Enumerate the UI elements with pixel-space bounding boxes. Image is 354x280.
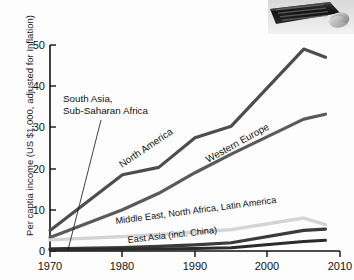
- annotation-south-asia-line1: South Asia,: [63, 93, 113, 104]
- series-line-western-europe: [50, 114, 326, 237]
- x-tick-1980: 1980: [110, 260, 134, 272]
- y-tick-0: 0: [39, 245, 45, 257]
- y-tick-40: 40: [33, 80, 45, 92]
- annotation-east-asia: East Asia (incl. China): [127, 225, 217, 245]
- chart-figure: Per captia income (US $1,000, adjusted f…: [0, 0, 354, 280]
- series-line-north-america: [50, 49, 326, 230]
- annotation-south-asia-line2: Sub-Saharan Africa: [63, 105, 149, 116]
- x-tick-1970: 1970: [38, 260, 62, 272]
- annotation-middle-east: Middle East, North Africa, Latin America: [115, 195, 278, 226]
- x-tick-2000: 2000: [255, 260, 279, 272]
- y-tick-50: 50: [33, 39, 45, 51]
- x-axis-tick-labels: 1970 1980 1990 2000 2010: [38, 260, 352, 272]
- x-axis-ticks: [50, 251, 340, 257]
- y-tick-20: 20: [33, 163, 45, 175]
- annotation-south-asia-leader-line: [68, 120, 101, 250]
- x-tick-1990: 1990: [183, 260, 207, 272]
- x-tick-2010: 2010: [328, 260, 352, 272]
- y-tick-10: 10: [33, 204, 45, 216]
- chart-plot-area: 50 40 30 20 10 0 1970 1980 1990 2000 201…: [0, 0, 354, 280]
- data-series-layer: [50, 49, 326, 250]
- y-tick-30: 30: [33, 121, 45, 133]
- y-axis-ticks: [50, 45, 56, 251]
- y-axis-tick-labels: 50 40 30 20 10 0: [33, 39, 45, 257]
- annotation-western-europe: Western Europe: [204, 121, 272, 165]
